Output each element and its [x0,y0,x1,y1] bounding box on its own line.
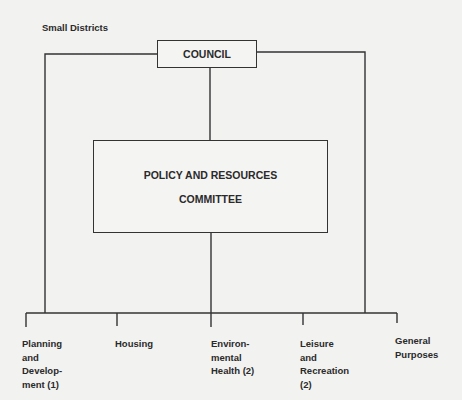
committee-planning-development: Planning and Develop- ment (1) [22,337,62,391]
policy-label-line2: COMMITTEE [179,193,242,205]
council-label: COUNCIL [183,48,231,60]
policy-label-line1: POLICY AND RESOURCES [144,169,278,181]
council-box: COUNCIL [157,40,257,68]
committee-environmental-health: Environ- mental Health (2) [211,337,254,378]
committee-general-purposes: General Purposes [395,334,438,361]
committee-leisure-recreation: Leisure and Recreation (2) [300,337,349,391]
policy-resources-committee-box: POLICY AND RESOURCES COMMITTEE [93,140,328,233]
committee-housing: Housing [115,337,153,351]
